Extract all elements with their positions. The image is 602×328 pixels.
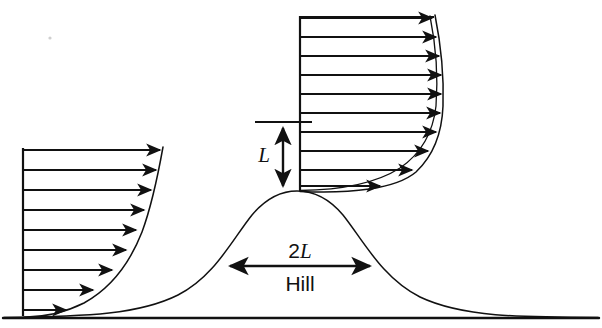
upstream-velocity-profile (23, 147, 163, 317)
scan-speck-group (48, 36, 51, 39)
hilltop-profile-inner-curve (300, 16, 437, 191)
scan-speck-icon (48, 36, 51, 39)
diagram-canvas: L 2L Hill (0, 0, 602, 328)
L-height-label: L (257, 143, 270, 167)
hill-width-label-group: 2L (288, 239, 311, 263)
2L-width-dimension: 2L Hill (230, 239, 370, 295)
flow-over-hill-diagram: L 2L Hill (0, 0, 602, 328)
hilltop-velocity-profile (300, 15, 443, 192)
hilltop-profile-envelope (300, 15, 443, 192)
upstream-profile-envelope (24, 147, 163, 317)
hill-width-label-prefix: 2 (288, 239, 300, 262)
hill-name-label: Hill (285, 272, 314, 295)
hill-width-label-symbol: L (299, 239, 312, 263)
